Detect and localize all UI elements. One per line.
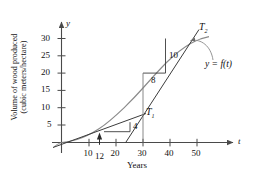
x-tick-20: 20: [111, 149, 120, 158]
slope-rise-label-t2: 10: [169, 51, 178, 60]
x-tick-50: 50: [192, 149, 201, 158]
function-label-text: y = f(t): [205, 59, 232, 69]
slope-rise-label-t1: 4: [133, 122, 138, 131]
y-axis-title: Volume of wood produced (cubic meters/he…: [10, 14, 29, 140]
y-tick-15: 15: [41, 85, 50, 94]
y-tick-20: 20: [41, 68, 50, 77]
y-tick-10: 10: [41, 103, 50, 112]
callout-arrow: [191, 40, 214, 60]
y-tick-30: 30: [41, 34, 50, 43]
x-tick-10: 10: [84, 149, 93, 158]
y-axis-title-line2: (cubic meters/hectare): [19, 14, 28, 140]
function-label: y = f(t): [205, 60, 232, 70]
y-tick-5: 5: [47, 120, 52, 129]
y-axis-variable: y: [66, 19, 70, 28]
tangent-label-t2: T2: [199, 22, 208, 34]
graph-figure: Volume of wood produced (cubic meters/he…: [0, 0, 260, 179]
slope-triangle-t2: [143, 39, 166, 74]
slope-run-label-t2: 8: [151, 76, 156, 85]
tangent-label-t2-sub: 2: [205, 28, 208, 34]
x-tick-30: 30: [138, 149, 147, 158]
graph-canvas: [0, 0, 260, 179]
tangent-label-t1-sub: 1: [152, 113, 155, 119]
x-axis-title: Years: [127, 161, 147, 170]
x-marker-12: 12: [95, 152, 104, 161]
y-tick-25: 25: [41, 51, 50, 60]
y-axis-title-line1: Volume of wood produced: [10, 14, 19, 140]
x-tick-40: 40: [165, 149, 174, 158]
x-axis-variable: t: [238, 137, 241, 146]
tangent-label-t1: T1: [146, 107, 155, 119]
